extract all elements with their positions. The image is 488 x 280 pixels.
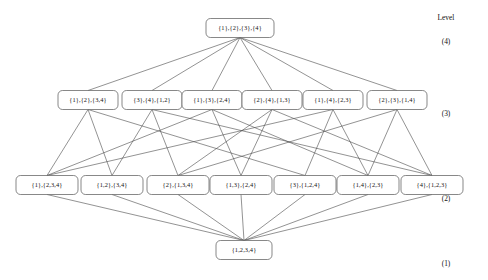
partition-node[interactable]: {1},{4},{2,3}: [303, 91, 363, 110]
lattice-edge: [152, 38, 240, 91]
partition-node[interactable]: {2},{1,3,4}: [147, 176, 209, 195]
partition-node[interactable]: {1,3},{2,4}: [210, 176, 272, 195]
lattice-edge: [47, 195, 244, 241]
lattice-edge: [305, 110, 333, 176]
lattice-edge: [212, 110, 241, 176]
level-column-header: Level: [438, 13, 455, 22]
lattice-edge: [178, 110, 397, 176]
node-label: {1,4},{2,3}: [353, 181, 384, 189]
lattice-edge: [152, 110, 432, 176]
edge-layer: [47, 38, 432, 241]
lattice-edge: [241, 110, 272, 176]
partition-lattice-hasse-diagram: {1},{2},{3},{4}{1},{2},{3,4}{3},{4},{1,2…: [0, 0, 488, 280]
partition-node[interactable]: {1},{2},{3,4}: [58, 91, 118, 110]
lattice-edge: [368, 110, 397, 176]
node-label: {1,3},{2,4}: [226, 181, 257, 189]
lattice-edge: [88, 110, 112, 176]
lattice-edge: [112, 195, 244, 241]
node-label: {1},{4},{2,3}: [314, 96, 351, 104]
lattice-edge: [244, 195, 305, 241]
partition-node[interactable]: {1},{2},{3},{4}: [206, 19, 274, 38]
lattice-edge: [397, 110, 432, 176]
lattice-edge: [212, 38, 240, 91]
level-label-l1: (1): [442, 259, 451, 268]
partition-node[interactable]: {1,2,3,4}: [216, 241, 272, 260]
node-label: {4},{1,2,3}: [417, 181, 448, 189]
lattice-edge: [178, 195, 244, 241]
node-label: {1},{2},{3,4}: [69, 96, 106, 104]
lattice-edge: [272, 110, 432, 176]
lattice-edge: [88, 38, 240, 91]
node-label: {1,2},{3,4}: [97, 181, 128, 189]
level-axis-labels: Level(4)(3)(2)(1): [438, 13, 455, 268]
node-label: {1},{2,3,4}: [32, 181, 63, 189]
lattice-edge: [241, 195, 244, 241]
level-label-l4: (4): [442, 37, 451, 46]
lattice-edge: [47, 110, 212, 176]
level-label-l2: (2): [442, 194, 451, 203]
node-label: {1},{3},{2,4}: [193, 96, 230, 104]
lattice-edge: [152, 110, 178, 176]
node-label: {3},{4},{1,2}: [133, 96, 170, 104]
partition-node[interactable]: {1,4},{2,3}: [337, 176, 399, 195]
node-label: {1},{2},{3},{4}: [218, 24, 262, 32]
partition-node[interactable]: {1},{3},{2,4}: [182, 91, 242, 110]
node-label: {3},{1,2,4}: [290, 181, 321, 189]
partition-node[interactable]: {2},{4},{1,3}: [242, 91, 302, 110]
partition-node[interactable]: {1,2},{3,4}: [81, 176, 143, 195]
node-label: {2},{4},{1,3}: [253, 96, 290, 104]
node-label: {1,2,3,4}: [232, 246, 257, 254]
partition-node[interactable]: {1},{2,3,4}: [16, 176, 78, 195]
partition-node[interactable]: {2},{3},{1,4}: [367, 91, 427, 110]
lattice-edge: [47, 110, 88, 176]
lattice-edge: [333, 110, 368, 176]
partition-node[interactable]: {3},{1,2,4}: [274, 176, 336, 195]
partition-node[interactable]: {4},{1,2,3}: [401, 176, 463, 195]
node-layer: {1},{2},{3},{4}{1},{2},{3,4}{3},{4},{1,2…: [16, 19, 463, 260]
node-label: {2},{1,3,4}: [163, 181, 194, 189]
node-label: {2},{3},{1,4}: [378, 96, 415, 104]
lattice-edge: [178, 110, 272, 176]
level-label-l3: (3): [442, 109, 451, 118]
lattice-edge: [244, 195, 432, 241]
lattice-edge: [244, 195, 368, 241]
lattice-edge: [88, 110, 305, 176]
partition-node[interactable]: {3},{4},{1,2}: [122, 91, 182, 110]
lattice-edge: [112, 110, 152, 176]
lattice-edge: [240, 38, 272, 91]
